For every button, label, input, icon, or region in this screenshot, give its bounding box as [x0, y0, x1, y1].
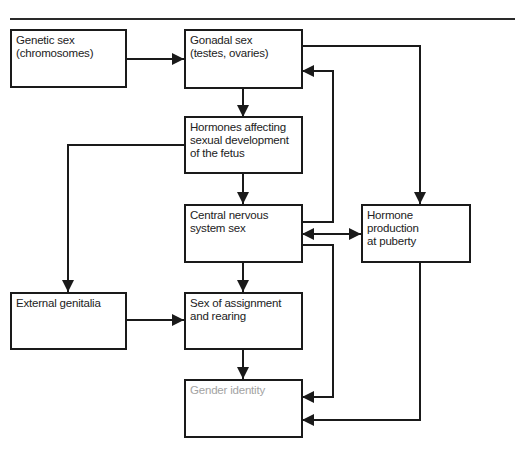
node-label: Genetic sex (chromosomes) — [16, 34, 121, 60]
node-label: Hormones affecting sexual development of… — [190, 121, 297, 160]
node-label: Gonadal sex (testes, ovaries) — [190, 34, 297, 60]
node-label: External genitalia — [16, 297, 121, 310]
node-sex-assignment: Sex of assignment and rearing — [184, 292, 303, 350]
node-hormones-fetus: Hormones affecting sexual development of… — [184, 116, 303, 174]
node-genetic-sex: Genetic sex (chromosomes) — [10, 29, 127, 88]
node-label: Sex of assignment and rearing — [190, 297, 297, 323]
node-label: Hormone production at puberty — [367, 209, 465, 248]
node-cns-sex: Central nervous system sex — [184, 204, 303, 263]
node-external-genitalia: External genitalia — [10, 292, 127, 350]
node-gonadal-sex: Gonadal sex (testes, ovaries) — [184, 29, 303, 89]
node-hormone-puberty: Hormone production at puberty — [361, 204, 471, 263]
node-label: Central nervous system sex — [190, 209, 297, 235]
node-gender-identity: Gender identity — [184, 379, 303, 438]
node-label: Gender identity — [190, 384, 297, 397]
